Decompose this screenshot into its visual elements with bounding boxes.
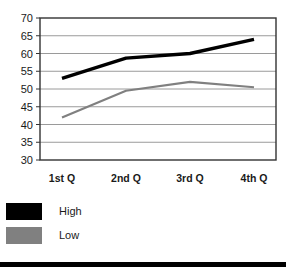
y-tick-label: 50: [21, 83, 33, 95]
x-tick-label: 1st Q: [49, 172, 75, 184]
y-tick-label: 45: [21, 101, 33, 113]
y-tick-label: 40: [21, 119, 33, 131]
y-tick-label: 35: [21, 136, 33, 148]
y-axis-tick-labels: 303540455055606570: [21, 14, 40, 166]
bottom-divider-bar: [0, 262, 286, 267]
black-swatch-icon: [6, 203, 42, 220]
x-axis-tick-labels: 1st Q2nd Q3rd Q4th Q: [49, 172, 268, 184]
y-tick-label: 70: [21, 14, 33, 24]
legend-item-low: Low: [6, 223, 206, 247]
legend-label-high: High: [59, 206, 82, 217]
gray-swatch-icon: [6, 227, 42, 244]
plot-area: 303540455055606570 1st Q2nd Q3rd Q4th Q: [0, 14, 286, 194]
x-tick-label: 3rd Q: [176, 172, 203, 184]
legend-item-high: High: [6, 199, 206, 223]
y-tick-label: 30: [21, 154, 33, 166]
series-line-low: [62, 82, 254, 118]
line-chart-widget: 303540455055606570 1st Q2nd Q3rd Q4th Q …: [0, 0, 286, 269]
x-tick-label: 4th Q: [241, 172, 268, 184]
y-tick-label: 60: [21, 48, 33, 60]
series-group: [62, 39, 254, 117]
gridlines-group: [40, 36, 276, 143]
y-tick-label: 65: [21, 30, 33, 42]
series-line-high: [62, 39, 254, 78]
chart-legend: High Low: [6, 199, 206, 247]
chart-svg: 303540455055606570 1st Q2nd Q3rd Q4th Q: [0, 14, 286, 194]
y-tick-label: 55: [21, 65, 33, 77]
x-tick-label: 2nd Q: [111, 172, 141, 184]
legend-label-low: Low: [59, 230, 79, 241]
